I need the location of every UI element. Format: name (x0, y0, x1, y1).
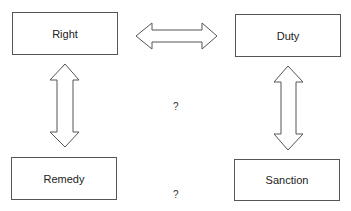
node-right: Right (12, 12, 118, 55)
double-arrow-duty-sanction-icon (274, 66, 303, 150)
double-arrow-right-duty-icon (136, 23, 217, 49)
node-right-label: Right (52, 28, 78, 40)
node-sanction-label: Sanction (266, 174, 309, 186)
question-mark-bottom: ? (173, 189, 179, 200)
node-duty: Duty (235, 14, 341, 57)
node-remedy-label: Remedy (44, 173, 85, 185)
diagram-canvas: Right Duty Remedy Sanction ? ? (0, 0, 351, 211)
node-sanction: Sanction (234, 159, 340, 201)
node-remedy: Remedy (11, 157, 117, 200)
question-mark-middle: ? (173, 101, 179, 112)
double-arrow-right-remedy-icon (50, 64, 79, 147)
node-duty-label: Duty (277, 30, 300, 42)
